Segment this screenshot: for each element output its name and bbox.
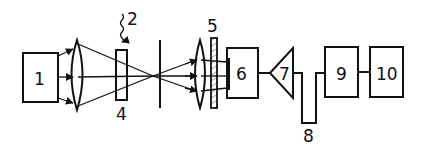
component-8-connector: 8 [293,73,325,146]
component-10: 10 [370,47,403,97]
label-5: 5 [207,16,218,36]
lens-a [72,40,83,110]
label-7: 7 [279,64,290,84]
label-9: 9 [336,64,347,84]
converging-rays [78,44,196,106]
label-3: 4 [116,104,127,124]
optical-diagram: 1 4 2 [0,0,428,150]
component-5-filter: 5 [207,16,218,108]
component-9: 9 [325,47,358,97]
label-1: 1 [34,69,45,89]
label-10: 10 [376,64,398,84]
label-6: 6 [236,64,247,84]
component-7-amplifier: 7 [270,48,293,98]
component-1-source: 1 [23,53,58,102]
component-2-signal: 2 [121,9,138,42]
label-8: 8 [303,126,314,146]
label-2: 2 [127,9,138,29]
component-6-detector: 6 [226,48,258,98]
lens-b [195,40,205,108]
